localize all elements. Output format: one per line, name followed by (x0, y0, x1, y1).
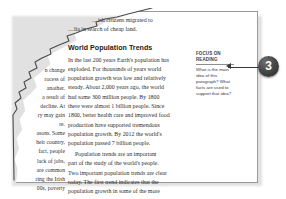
fragment-line: ring the Irish (18, 175, 65, 184)
intro-line: …ish citizens migrated to (68, 16, 180, 25)
fragment-spacer (18, 57, 65, 66)
fragment-line: n change (18, 66, 65, 75)
body-paragraphs: In the last 200 years Earth's population… (68, 56, 180, 197)
section-heading: World Population Trends (68, 44, 180, 53)
fragment-line: decline. At (18, 102, 65, 111)
body-line: steady. About 2,000 years ago, the world (68, 83, 180, 92)
fragment-line: re. (18, 120, 65, 129)
body-line: population growth. By 2012 the world's (68, 130, 180, 139)
body-line: population growth in some of the more (68, 187, 180, 196)
body-line: part of the study of the world's people. (68, 159, 180, 168)
fragment-line: lack of jobs, (18, 157, 65, 166)
callout-question-text: What is the main idea of this paragraph?… (196, 67, 234, 97)
callout-line: support that idea? (196, 91, 234, 97)
focus-on-reading-callout: FOCUS ON READING What is the main idea o… (196, 51, 234, 97)
body-line: 1800, better health care and improved fo… (68, 111, 180, 120)
body-line: there were almost 1 billion people. Sinc… (68, 102, 180, 111)
annotation-arrowhead-icon (226, 63, 231, 69)
fragment-line: ry may gain (18, 111, 65, 120)
body-line: exploded. For thousands of years world (68, 65, 180, 74)
intro-line: …lia in search of cheap land. (68, 25, 180, 34)
fragment-line: a result of (18, 93, 65, 102)
body-line: In the last 200 years Earth's population… (68, 56, 180, 65)
body-line: population passed 7 billion people. (68, 139, 180, 148)
body-line: production have supported tremendous (68, 121, 180, 130)
screenshot-root: n change rocess of another. a result of … (0, 0, 286, 199)
body-line: had some 300 million people. By 1800 (68, 93, 180, 102)
fragment-line: fact, people (18, 147, 65, 156)
fragment-line: asons. Some (18, 129, 65, 138)
annotation-number-badge: 3 (258, 56, 279, 77)
torn-column-fragment: n change rocess of another. a result of … (18, 57, 65, 193)
fragment-line: 00s, poverty (18, 184, 65, 193)
annotation-number-badge-label: 3 (265, 60, 272, 72)
body-line: Two important population trends are clea… (68, 169, 180, 178)
fragment-line: heir country, (18, 138, 65, 147)
body-line: Population trends are an important (68, 150, 180, 159)
fragment-line: another. (18, 84, 65, 93)
body-line: today. The first trend indicates that th… (68, 178, 180, 187)
callout-kicker: FOCUS ON READING (196, 51, 234, 63)
main-text-column: …ish citizens migrated to …lia in search… (68, 16, 180, 197)
body-line: population growth was low and relatively (68, 74, 180, 83)
fragment-line: are common (18, 166, 65, 175)
intro-paragraph-fragment: …ish citizens migrated to …lia in search… (68, 16, 180, 35)
fragment-line: rocess of (18, 75, 65, 84)
callout-kicker-line1: FOCUS ON (196, 51, 221, 56)
